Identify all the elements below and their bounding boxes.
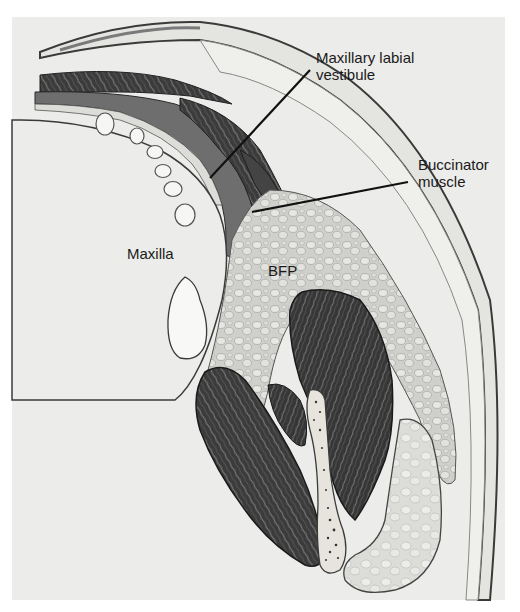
label-bfp: BFP (268, 262, 297, 279)
label-maxilla: Maxilla (127, 245, 174, 262)
tooth-root (164, 182, 182, 197)
label-line: muscle (418, 173, 489, 190)
tooth-root (155, 165, 171, 178)
label-line: Buccinator (418, 156, 489, 173)
tooth-root (147, 146, 163, 159)
tooth-root (130, 128, 144, 144)
label-line: vestibule (316, 66, 414, 83)
tooth-root (175, 204, 195, 226)
label-buccinator-muscle: Buccinator muscle (418, 156, 489, 190)
anatomy-illustration (0, 0, 520, 612)
tooth-root (96, 113, 114, 135)
label-line: Maxillary labial (316, 49, 414, 66)
label-maxillary-labial-vestibule: Maxillary labial vestibule (316, 49, 414, 83)
